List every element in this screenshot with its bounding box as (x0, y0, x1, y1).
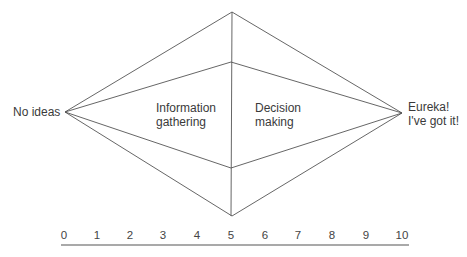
end-label-line1: Eureka! (408, 100, 459, 114)
outer-lower-edge (65, 112, 402, 216)
tick-9: 9 (363, 229, 369, 241)
decision-making-label: Decision making (255, 101, 301, 129)
region-label-line2: making (255, 115, 301, 129)
tick-2: 2 (127, 229, 133, 241)
tick-8: 8 (329, 229, 335, 241)
information-gathering-label: Information gathering (156, 101, 216, 129)
tick-1: 1 (94, 229, 100, 241)
tick-10: 10 (396, 229, 409, 241)
region-label-line2: gathering (156, 115, 216, 129)
inner-upper-edge (65, 62, 402, 113)
tick-3: 3 (160, 229, 166, 241)
tick-6: 6 (262, 229, 268, 241)
start-label: No ideas (13, 105, 60, 119)
end-label: Eureka! I've got it! (408, 100, 459, 128)
region-label-line1: Decision (255, 101, 301, 115)
center-divider (231, 12, 232, 216)
tick-0: 0 (61, 229, 67, 241)
tick-5: 5 (228, 229, 234, 241)
region-label-line1: Information (156, 101, 216, 115)
end-label-line2: I've got it! (408, 114, 459, 128)
inner-lower-edge (65, 112, 402, 168)
diamond-diagram (0, 0, 467, 257)
tick-7: 7 (295, 229, 301, 241)
tick-4: 4 (194, 229, 200, 241)
